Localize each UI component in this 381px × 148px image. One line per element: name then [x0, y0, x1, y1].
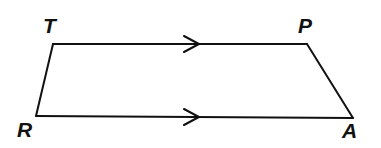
geometry-figure: T P A R	[0, 0, 381, 148]
edge-T-R	[36, 44, 53, 116]
vertex-label-A: A	[342, 120, 357, 141]
edge-P-A	[307, 44, 353, 118]
trapezoid-svg	[0, 0, 381, 148]
vertex-label-R: R	[17, 119, 32, 140]
edge-R-A	[36, 116, 353, 118]
vertex-label-P: P	[298, 15, 312, 36]
vertex-label-T: T	[43, 15, 56, 36]
